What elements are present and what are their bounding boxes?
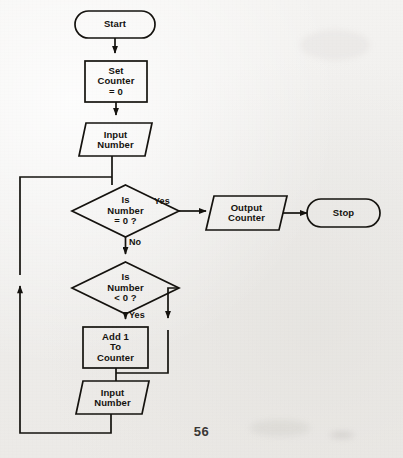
edge-label-decision-1-no: No bbox=[129, 238, 141, 247]
node-is-number-zero-label: Is Number = 0 ? bbox=[92, 186, 159, 236]
node-add-one-label: Add 1 To Counter bbox=[83, 327, 148, 368]
scanned-page: Start Set Counter = 0 Input Number Is Nu… bbox=[0, 0, 403, 458]
node-is-number-negative-label: Is Number < 0 ? bbox=[92, 263, 159, 313]
node-output-counter-label: Output Counter bbox=[206, 197, 287, 229]
node-input-number-1-label: Input Number bbox=[79, 124, 152, 156]
edge-label-decision-1-yes: Yes bbox=[154, 197, 170, 206]
flowchart-canvas bbox=[0, 0, 403, 458]
page-number: 56 bbox=[0, 424, 403, 439]
node-set-counter-label: Set Counter = 0 bbox=[85, 61, 147, 102]
node-input-number-2-label: Input Number bbox=[76, 382, 149, 414]
edge-label-decision-2-yes: Yes bbox=[129, 311, 145, 320]
node-start-label: Start bbox=[75, 11, 155, 38]
node-stop-label: Stop bbox=[307, 199, 380, 227]
